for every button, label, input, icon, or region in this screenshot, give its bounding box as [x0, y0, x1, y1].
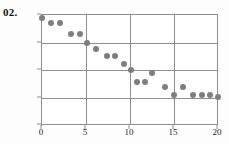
- data-point: [48, 20, 54, 26]
- data-point: [207, 92, 213, 98]
- x-tick-mark: [85, 125, 86, 129]
- figure-number-label: 02.: [3, 6, 18, 18]
- data-point: [171, 92, 177, 98]
- figure-container: 02. 05101520 05101520: [0, 0, 229, 144]
- data-point: [149, 70, 155, 76]
- data-point: [190, 92, 196, 98]
- data-point: [128, 67, 134, 73]
- x-tick-mark: [217, 125, 218, 129]
- x-tick-mark: [129, 125, 130, 129]
- data-point: [134, 79, 140, 85]
- data-point: [215, 94, 221, 100]
- x-tick-mark: [41, 125, 42, 129]
- data-point: [104, 53, 110, 59]
- y-tick-mark: [37, 69, 41, 70]
- y-tick-mark: [37, 41, 41, 42]
- data-point: [162, 84, 168, 90]
- data-point: [121, 61, 127, 67]
- x-tick-mark: [173, 125, 174, 129]
- data-point: [142, 79, 148, 85]
- y-tick-mark: [37, 96, 41, 97]
- gridline-horizontal: [42, 43, 217, 44]
- data-point: [112, 53, 118, 59]
- data-point: [84, 40, 90, 46]
- y-tick-mark: [37, 14, 41, 15]
- data-point: [57, 20, 63, 26]
- scatter-plot-area: [41, 14, 218, 125]
- data-point: [93, 46, 99, 52]
- data-point: [77, 31, 83, 37]
- data-point: [68, 31, 74, 37]
- data-point: [39, 15, 45, 21]
- data-point: [180, 84, 186, 90]
- data-point: [199, 92, 205, 98]
